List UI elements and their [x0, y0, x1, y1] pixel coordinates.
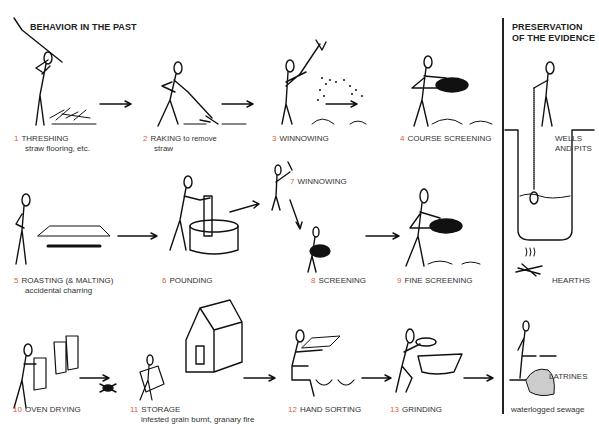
- arrow-7-8: [290, 200, 302, 229]
- step-caption-11: 11STORAGE infested grain burnt, granary …: [130, 405, 254, 425]
- step-caption-4: 4COURSE SCREENING: [400, 134, 491, 144]
- grain-scatter-icon: [317, 77, 363, 101]
- arrow-3-4: [326, 101, 357, 107]
- latrine-figure-icon: [510, 321, 556, 396]
- evidence-note-waterlogged-sewage: waterlogged sewage: [511, 405, 584, 415]
- arrow-8-9: [366, 233, 399, 239]
- evidence-caption-wells-pits: WELLS AND PITS: [555, 134, 592, 154]
- arrow-11-12: [244, 375, 275, 381]
- arrow-2-3: [222, 101, 253, 107]
- grain-heap-icon: [312, 119, 366, 124]
- step-caption-7: 7WINNOWING: [290, 177, 347, 187]
- step-caption-5: 5ROASTING (& MALTING) accidental charrin…: [14, 276, 113, 296]
- step-caption-13: 13GRINDING: [390, 405, 442, 415]
- evidence-caption-latrines: LATRINES: [549, 372, 588, 382]
- course-screening-figure-icon: [412, 56, 468, 126]
- winnowing-small-figure-icon: [272, 162, 292, 210]
- process-illustrations: [0, 0, 599, 427]
- screened-heap-icon: [432, 119, 492, 124]
- step-caption-6: 6POUNDING: [162, 276, 213, 286]
- fine-screening-figure-icon: [406, 189, 462, 266]
- arrow-10-11: [80, 375, 109, 381]
- raking-figure-icon: [158, 62, 218, 126]
- threshing-figure-icon: [14, 18, 62, 125]
- pounding-figure-icon: [170, 176, 238, 254]
- evidence-caption-hearths: HEARTHS: [552, 276, 590, 286]
- grinding-figure-icon: [396, 329, 462, 392]
- winnowing-figure-icon: [282, 40, 326, 124]
- roasting-figure-icon: [16, 194, 110, 264]
- step-caption-12: 12HAND SORTING: [288, 405, 361, 415]
- hand-sorting-figure-icon: [292, 330, 354, 396]
- step-caption-9: 9FINE SCREENING: [397, 276, 472, 286]
- arrow-13-evidence: [464, 375, 493, 381]
- granary-house-icon: [186, 300, 242, 372]
- straw-pile-icon: [50, 108, 96, 124]
- oven-drying-figure-icon: [14, 336, 78, 408]
- arrow-1-2: [100, 101, 131, 107]
- fine-heap-icon: [428, 261, 480, 264]
- step-caption-3: 3WINNOWING: [272, 134, 329, 144]
- arrow-12-13: [362, 375, 391, 381]
- insect-icon: [100, 384, 116, 392]
- step-caption-2: 2RAKING to remove straw: [143, 134, 217, 154]
- screening-small-figure-icon: [308, 227, 330, 272]
- step-caption-1: 1THRESHING straw flooring, etc.: [14, 134, 90, 154]
- step-caption-10: 10OVEN DRYING: [13, 405, 81, 415]
- arrow-6-7: [230, 201, 259, 212]
- arrow-5-6: [118, 233, 157, 239]
- hearth-icon: [516, 248, 542, 276]
- step-caption-8: 8SCREENING: [311, 276, 366, 286]
- storage-figure-icon: [140, 355, 164, 400]
